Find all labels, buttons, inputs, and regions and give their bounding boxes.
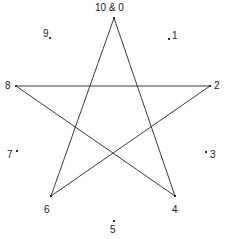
- vertex-dot-2: [209, 85, 211, 87]
- tick-dot-7: [16, 150, 18, 152]
- star-point-label-2: 2: [214, 81, 220, 91]
- vertex-dot-6: [50, 195, 52, 197]
- tick-label-3: 3: [210, 150, 216, 160]
- star-point-label-10-and-0: 10 & 0: [95, 3, 124, 13]
- star-point-label-8: 8: [5, 81, 11, 91]
- tick-label-7: 7: [7, 150, 13, 160]
- diagram-canvas: 10 & 0 2 4 6 8 1 3 5 7 9: [0, 0, 226, 239]
- star-edge-1: [16, 86, 175, 196]
- star-edge-3: [51, 86, 210, 196]
- star-edge-0: [114, 18, 175, 196]
- star-edge-4: [51, 18, 114, 196]
- star-edge-group: [16, 18, 210, 196]
- tick-dot-3: [205, 151, 207, 153]
- tick-label-5: 5: [110, 225, 116, 235]
- pentagram-star: [0, 0, 226, 239]
- vertex-dot-4: [174, 195, 176, 197]
- vertex-dot-10-and-0: [113, 17, 115, 19]
- tick-label-9: 9: [43, 29, 49, 39]
- tick-dot-5: [113, 220, 115, 222]
- tick-label-1: 1: [172, 31, 178, 41]
- star-point-label-4: 4: [172, 205, 178, 215]
- vertex-dot-8: [15, 85, 17, 87]
- tick-dot-9: [49, 37, 51, 39]
- star-point-label-6: 6: [44, 205, 50, 215]
- tick-dot-1: [168, 38, 170, 40]
